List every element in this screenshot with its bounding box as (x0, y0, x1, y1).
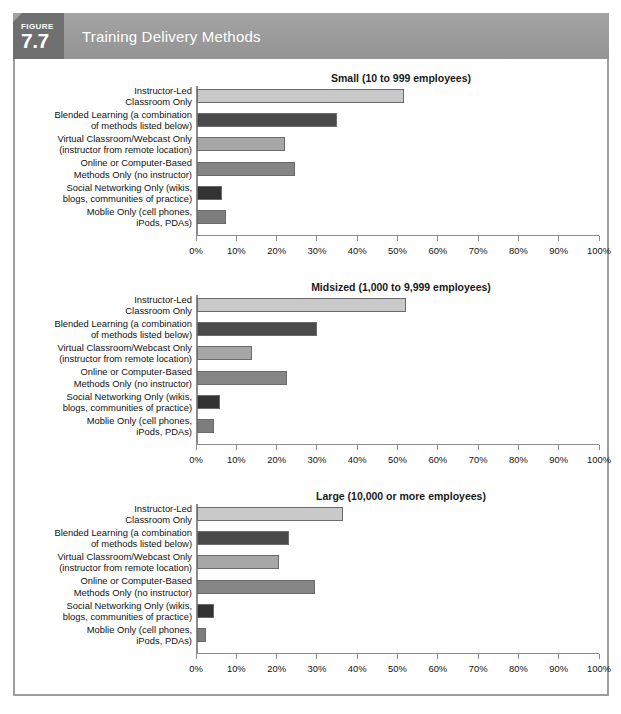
category-label: Blended Learning (a combination of metho… (14, 527, 192, 549)
axis-tick-label: 30% (308, 245, 327, 256)
category-label: Virtual Classroom/Webcast Only (instruct… (14, 133, 192, 155)
plot-area: Instructor-Led Classroom OnlyBlended Lea… (15, 86, 599, 250)
axis-tick (196, 445, 197, 450)
category-label: Moblie Only (cell phones, iPods, PDAs) (14, 206, 192, 228)
axis-tick (599, 654, 600, 659)
bar (197, 604, 214, 618)
axis-tick (236, 236, 237, 241)
axis-tick-label: 100% (587, 663, 611, 674)
axis-tick (599, 445, 600, 450)
plot-area: Instructor-Led Classroom OnlyBlended Lea… (15, 504, 599, 668)
axis-tick (558, 654, 559, 659)
axis-tick-label: 40% (348, 245, 367, 256)
category-label: Blended Learning (a combination of metho… (14, 109, 192, 131)
axis-tick (276, 654, 277, 659)
axis-tick-label: 60% (428, 663, 447, 674)
axis-tick (478, 654, 479, 659)
category-label-group: Instructor-Led Classroom OnlyBlended Lea… (15, 504, 195, 668)
axis-tick-label: 20% (267, 454, 286, 465)
axis-tick-label: 70% (469, 454, 488, 465)
figure-header-banner: FIGURE 7.7 Training Delivery Methods (13, 13, 609, 59)
axis-tick (357, 236, 358, 241)
axis-tick (196, 654, 197, 659)
axis-tick (357, 445, 358, 450)
bar (197, 298, 406, 312)
category-label: Online or Computer-Based Methods Only (n… (14, 157, 192, 179)
chart-title: Midsized (1,000 to 9,999 employees) (195, 280, 607, 294)
axis-tick-label: 60% (428, 454, 447, 465)
category-label: Online or Computer-Based Methods Only (n… (14, 366, 192, 388)
axis-tick-label: 40% (348, 454, 367, 465)
axis-tick (518, 445, 519, 450)
axis-tick-label: 80% (509, 454, 528, 465)
bar (197, 371, 287, 385)
chart-block-small: Small (10 to 999 employees) Instructor-L… (15, 71, 607, 276)
axis-tick (518, 654, 519, 659)
axis-tick (478, 445, 479, 450)
axis-tick-label: 50% (388, 663, 407, 674)
axis-tick (518, 236, 519, 241)
axis-tick-label: 20% (267, 663, 286, 674)
category-label: Instructor-Led Classroom Only (14, 503, 192, 525)
figure-number-label: 7.7 (21, 31, 64, 51)
category-label: Social Networking Only (wikis, blogs, co… (14, 600, 192, 622)
axis-tick (558, 445, 559, 450)
axis-tick-label: 90% (549, 245, 568, 256)
axis-tick (397, 236, 398, 241)
bars-area (196, 295, 599, 444)
axis-group: 0%10%20%30%40%50%60%70%80%90%100% (196, 86, 599, 250)
axis-tick-label: 40% (348, 663, 367, 674)
bar (197, 555, 279, 569)
axis-tick (437, 236, 438, 241)
category-label-group: Instructor-Led Classroom OnlyBlended Lea… (15, 86, 195, 250)
bar (197, 162, 295, 176)
axis-tick-label: 10% (227, 663, 246, 674)
axis-tick-label: 90% (549, 454, 568, 465)
axis-tick-label: 100% (587, 454, 611, 465)
chart-block-midsized: Midsized (1,000 to 9,999 employees) Inst… (15, 280, 607, 485)
axis-tick (397, 445, 398, 450)
bars-area (196, 504, 599, 653)
axis-tick-label: 30% (308, 454, 327, 465)
axis-tick-label: 0% (189, 454, 203, 465)
category-label: Moblie Only (cell phones, iPods, PDAs) (14, 624, 192, 646)
axis-tick (196, 236, 197, 241)
axis-tick-label: 90% (549, 663, 568, 674)
axis-tick-label: 100% (587, 245, 611, 256)
axis-tick (236, 654, 237, 659)
axis-tick (316, 445, 317, 450)
bar (197, 395, 220, 409)
bar (197, 322, 317, 336)
bar (197, 346, 252, 360)
category-label: Virtual Classroom/Webcast Only (instruct… (14, 551, 192, 573)
bar (197, 507, 343, 521)
bar (197, 628, 206, 642)
category-label-group: Instructor-Led Classroom OnlyBlended Lea… (15, 295, 195, 459)
bar (197, 210, 226, 224)
axis-tick (397, 654, 398, 659)
bar (197, 89, 404, 103)
axis-tick-label: 80% (509, 663, 528, 674)
category-label: Social Networking Only (wikis, blogs, co… (14, 182, 192, 204)
axis-tick-label: 0% (189, 663, 203, 674)
category-label: Instructor-Led Classroom Only (14, 85, 192, 107)
axis-tick (437, 445, 438, 450)
plot-area: Instructor-Led Classroom OnlyBlended Lea… (15, 295, 599, 459)
axis-tick (599, 236, 600, 241)
axis-tick (236, 445, 237, 450)
axis-tick-label: 10% (227, 454, 246, 465)
axis-tick-label: 70% (469, 663, 488, 674)
bar (197, 113, 337, 127)
axis-tick-label: 0% (189, 245, 203, 256)
figure-number-badge: FIGURE 7.7 (13, 13, 64, 59)
chart-panel: Small (10 to 999 employees) Instructor-L… (13, 59, 609, 696)
bars-area (196, 86, 599, 235)
axis-tick-label: 70% (469, 245, 488, 256)
category-label: Blended Learning (a combination of metho… (14, 318, 192, 340)
axis-tick-label: 80% (509, 245, 528, 256)
axis-tick (357, 654, 358, 659)
axis-tick-label: 10% (227, 245, 246, 256)
bar (197, 531, 289, 545)
axis-tick (276, 445, 277, 450)
chart-title: Small (10 to 999 employees) (195, 71, 607, 85)
